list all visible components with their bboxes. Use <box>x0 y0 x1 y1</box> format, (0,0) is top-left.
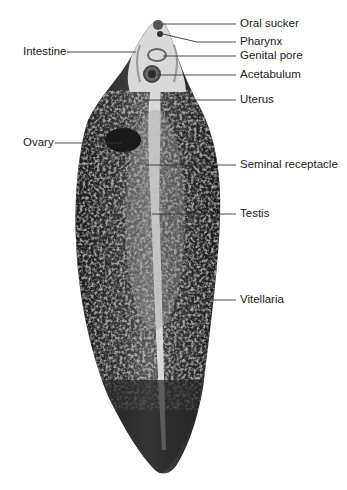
label-ovary: Ovary <box>23 137 54 149</box>
label-oral-sucker: Oral sucker <box>240 18 299 30</box>
label-seminal-receptacle: Seminal receptacle <box>240 159 338 171</box>
specimen-body <box>60 20 240 475</box>
label-testis: Testis <box>240 208 269 220</box>
label-acetabulum: Acetabulum <box>240 69 301 81</box>
leader-pharynx <box>163 34 236 42</box>
label-vitellaria: Vitellaria <box>240 294 284 306</box>
label-genital-pore: Genital pore <box>240 50 303 62</box>
label-intestine: Intestine <box>23 46 66 58</box>
label-pharynx: Pharynx <box>240 36 282 48</box>
oral-sucker-structure <box>153 20 163 30</box>
label-uterus: Uterus <box>240 94 274 106</box>
